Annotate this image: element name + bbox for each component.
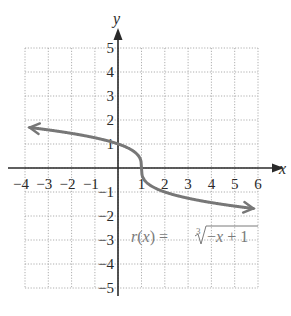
y-tick-label: 2 <box>107 112 115 128</box>
x-tick-label: 5 <box>231 176 239 192</box>
x-tick-label: 4 <box>208 176 216 192</box>
axes: x y <box>8 10 286 296</box>
y-tick-label: −2 <box>98 208 114 224</box>
y-tick-label: −1 <box>98 184 114 200</box>
y-axis-arrow-icon <box>114 28 123 40</box>
y-tick-label: 1 <box>107 136 115 152</box>
x-tick-label: −4 <box>13 176 29 192</box>
svg-text:r(x) =: r(x) = <box>131 228 168 246</box>
y-tick-label: −4 <box>98 256 114 272</box>
y-tick-label: 5 <box>107 40 115 56</box>
x-tick-label: 3 <box>184 176 192 192</box>
y-tick-label: −5 <box>98 280 114 296</box>
x-tick-label: −1 <box>83 176 99 192</box>
x-tick-label: −3 <box>36 176 52 192</box>
y-axis-label: y <box>111 10 121 28</box>
y-tick-label: −3 <box>98 232 114 248</box>
svg-text:−x + 1: −x + 1 <box>207 228 248 245</box>
graph: x y −4−3−2−112345654321−1−2−3−4−5 r(x) =… <box>0 0 291 316</box>
x-axis-label: x <box>278 160 286 177</box>
y-tick-label: 3 <box>107 88 115 104</box>
y-tick-label: 4 <box>107 64 115 80</box>
function-label: r(x) = 3 −x + 1 <box>131 226 258 246</box>
x-tick-label: 6 <box>254 176 262 192</box>
x-tick-label: −2 <box>60 176 76 192</box>
